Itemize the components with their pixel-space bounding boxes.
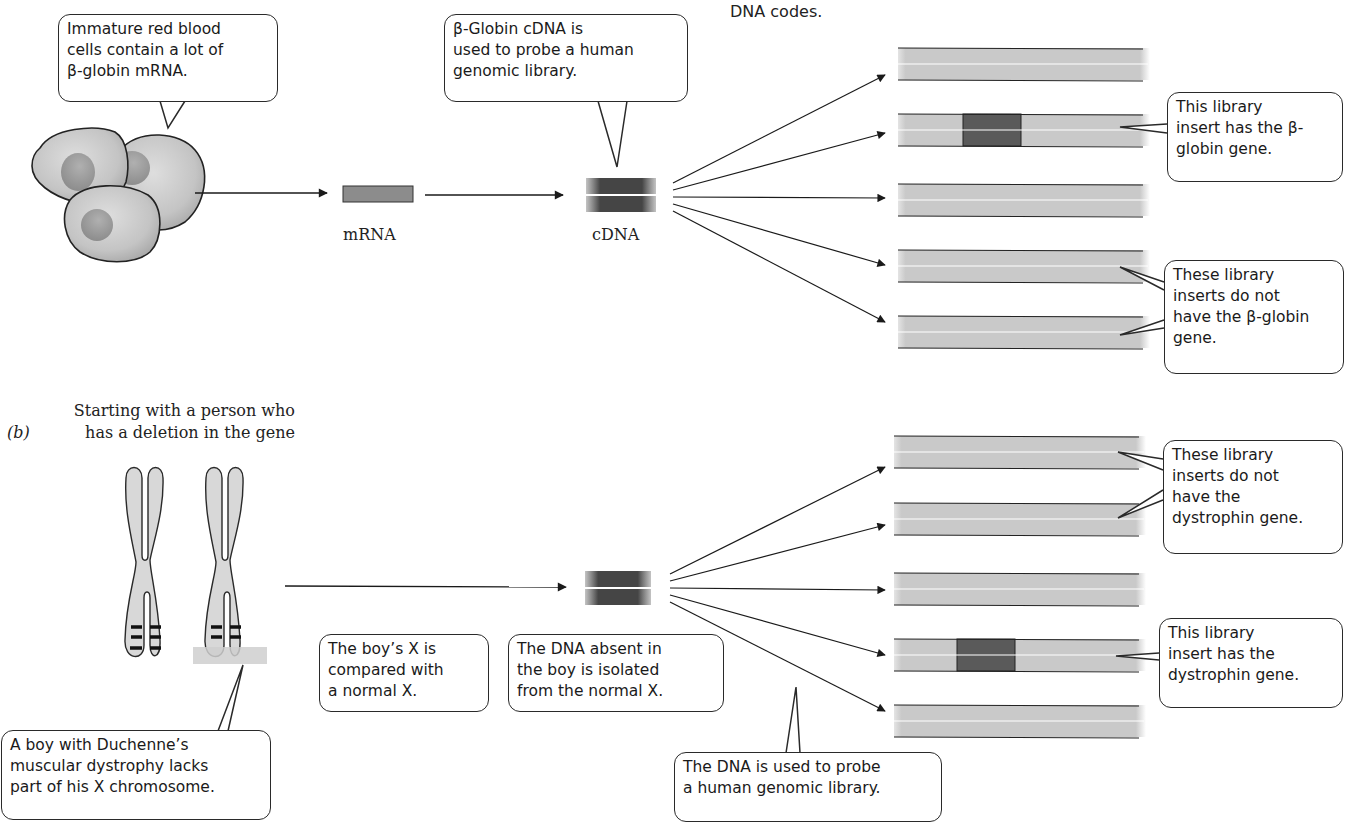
callout-inserts-lack-beta-globin: These library inserts do not have the β-… (1164, 260, 1344, 374)
library-insert (894, 705, 1146, 738)
library-inserts-bottom (894, 436, 1146, 738)
library-insert (894, 573, 1146, 606)
panel-b-label: (b) (7, 400, 30, 444)
label-cdna: cDNA (592, 224, 639, 246)
library-insert-with-gene (898, 114, 1150, 147)
callout-cdna-probe: β-Globin cDNA is used to probe a human g… (444, 14, 688, 102)
library-inserts-top (898, 48, 1150, 349)
callout-boy-duchenne: A boy with Duchenne’s muscular dystrophy… (1, 730, 271, 820)
callout-insert-has-beta-globin: This library insert has the β- globin ge… (1167, 92, 1343, 182)
library-insert (898, 184, 1150, 217)
red-blood-cells-icon (32, 128, 205, 262)
chromosome-normal-x-icon (125, 468, 163, 657)
library-insert (898, 316, 1150, 349)
callout-insert-has-dystrophin: This library insert has the dystrophin g… (1159, 618, 1343, 708)
callout-inserts-lack-dystrophin: These library inserts do not have the dy… (1163, 440, 1343, 554)
panel-b-letter: (b) (7, 423, 30, 442)
library-insert (894, 436, 1146, 469)
callout-dna-probe-library: The DNA is used to probe a human genomic… (674, 752, 942, 822)
panel-b-title: Starting with a person who has a deletio… (40, 400, 295, 444)
cdna-probe-icon (586, 178, 656, 212)
isolated-dna-probe-icon (585, 571, 651, 605)
chromosome-boy-x-icon (205, 468, 243, 657)
library-insert-with-gene (894, 639, 1146, 672)
library-insert (894, 503, 1146, 536)
callout-dna-isolated: The DNA absent in the boy is isolated fr… (508, 634, 724, 712)
library-insert (898, 250, 1150, 283)
deletion-region-highlight (193, 647, 267, 664)
library-insert (898, 48, 1150, 81)
cut-off-heading-text: DNA codes. (730, 2, 822, 21)
mrna-strip-icon (343, 186, 413, 202)
callout-compare-x: The boy’s X is compared with a normal X. (319, 634, 489, 712)
fan-arrows-top (673, 75, 885, 322)
label-mrna: mRNA (343, 224, 396, 246)
arrow-to-isolated-dna (285, 586, 566, 587)
callout-red-blood-cells: Immature red blood cells contain a lot o… (58, 14, 278, 102)
